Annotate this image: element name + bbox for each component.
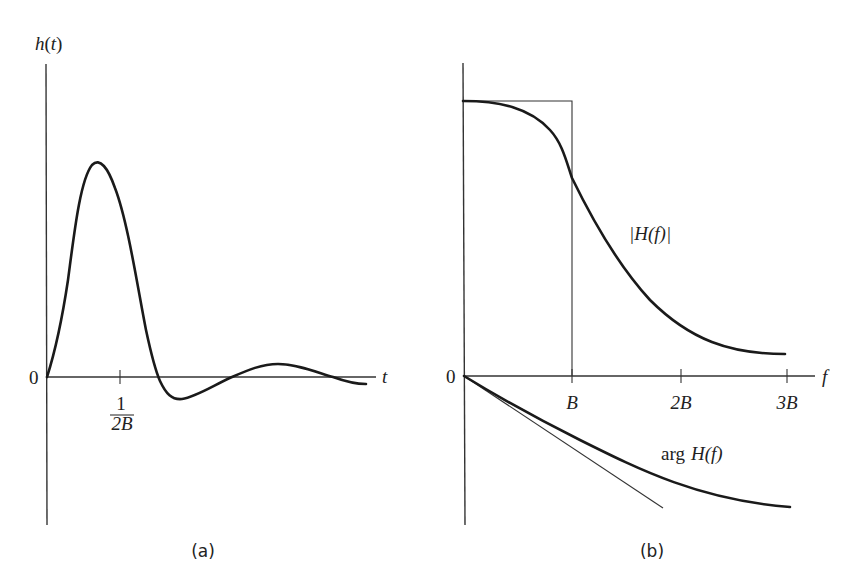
phase-label: argH(f) xyxy=(661,443,723,465)
panel-a-tick-numerator: 1 xyxy=(116,393,126,414)
panel-a-tick-denominator: 2B xyxy=(111,413,133,434)
panel-a-origin-label: 0 xyxy=(29,367,39,388)
figure: h(t) 0 t 1 2B (a) 0 f B xyxy=(0,0,859,587)
panel-a-caption: (a) xyxy=(191,541,215,561)
panel-a-ylabel: h(t) xyxy=(35,33,62,55)
panel-b-tick-label-2B: 2B xyxy=(670,392,692,413)
panel-b-caption: (b) xyxy=(640,541,664,561)
magnitude-label: |H(f)| xyxy=(629,223,671,245)
panel-b-tick-label-3B: 3B xyxy=(775,392,798,413)
panel-b-y-axis xyxy=(463,63,465,525)
panel-b-origin-label: 0 xyxy=(446,366,456,387)
panel-b-xlabel: f xyxy=(822,366,830,387)
linear-phase-asymptote xyxy=(464,376,663,508)
panel-a: h(t) 0 t 1 2B (a) xyxy=(29,33,388,561)
impulse-response-curve xyxy=(47,162,366,399)
magnitude-response-curve xyxy=(463,101,785,354)
panel-b: 0 f B 2B 3B |H(f)| argH(f) (b) xyxy=(446,63,830,561)
panel-a-y-axis xyxy=(46,64,47,525)
ideal-lowpass-rectangle xyxy=(463,101,572,376)
panel-a-xlabel: t xyxy=(382,366,388,387)
panel-b-tick-label-B: B xyxy=(566,392,578,413)
phase-response-curve xyxy=(464,376,790,507)
